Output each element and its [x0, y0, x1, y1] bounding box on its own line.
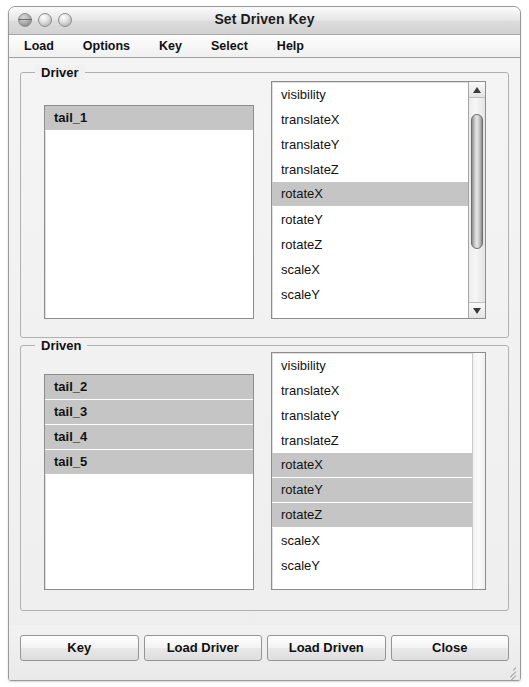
dialog-footer: Key Load Driver Load Driven Close — [9, 625, 520, 681]
attribute-list-item[interactable]: scaleX — [272, 257, 468, 282]
object-list-item[interactable]: tail_1 — [45, 106, 253, 131]
scroll-up-arrow-icon[interactable] — [469, 82, 485, 98]
close-dialog-button[interactable]: Close — [391, 635, 510, 661]
attribute-list-item[interactable]: rotateY — [272, 478, 472, 503]
object-list-item[interactable]: tail_3 — [45, 400, 253, 425]
driven-attribute-list-rows: visibilitytranslateXtranslateYtranslateZ… — [272, 353, 472, 589]
driven-group-title: Driven — [35, 338, 87, 353]
driven-attribute-scrollbar[interactable] — [472, 353, 485, 589]
attribute-list-item[interactable]: visibility — [272, 82, 468, 107]
attribute-list-item[interactable]: rotateZ — [272, 232, 468, 257]
title-bar[interactable]: Set Driven Key — [9, 7, 520, 35]
menu-bar: Load Options Key Select Help — [9, 35, 520, 58]
menu-item-help[interactable]: Help — [275, 38, 306, 54]
menu-item-select[interactable]: Select — [209, 38, 250, 54]
attribute-list-item[interactable]: scaleX — [272, 528, 472, 553]
resize-grip-icon[interactable] — [502, 664, 517, 679]
attribute-list-item[interactable]: translateX — [272, 107, 468, 132]
attribute-list-item[interactable]: translateX — [272, 378, 472, 403]
key-button[interactable]: Key — [20, 635, 139, 661]
menu-item-options[interactable]: Options — [81, 38, 132, 54]
driven-group: Driven tail_2tail_3tail_4tail_5 visibili… — [20, 345, 509, 611]
driven-object-list[interactable]: tail_2tail_3tail_4tail_5 — [44, 374, 254, 590]
attribute-list-item[interactable]: scaleY — [272, 553, 472, 578]
attribute-list-item[interactable]: translateZ — [272, 157, 468, 182]
attribute-list-item[interactable]: scaleY — [272, 282, 468, 307]
scrollbar-thumb[interactable] — [471, 114, 483, 249]
driver-object-list[interactable]: tail_1 — [44, 105, 254, 319]
object-list-item[interactable]: tail_5 — [45, 450, 253, 475]
load-driven-button[interactable]: Load Driven — [267, 635, 386, 661]
driver-attribute-scrollbar[interactable] — [468, 82, 485, 318]
menu-item-key[interactable]: Key — [157, 38, 184, 54]
attribute-list-item[interactable]: translateY — [272, 403, 472, 428]
menu-item-load[interactable]: Load — [22, 38, 56, 54]
scroll-down-arrow-icon[interactable] — [469, 302, 485, 318]
attribute-list-item[interactable]: translateZ — [272, 428, 472, 453]
attribute-list-item[interactable]: rotateX — [272, 453, 472, 478]
driver-attribute-list-rows: visibilitytranslateXtranslateYtranslateZ… — [272, 82, 468, 318]
driver-group-title: Driver — [35, 65, 85, 80]
dialog-content: Driver tail_1 visibilitytranslateXtransl… — [9, 58, 520, 681]
attribute-list-item[interactable]: visibility — [272, 353, 472, 378]
attribute-list-item[interactable]: rotateX — [272, 182, 468, 207]
object-list-item[interactable]: tail_2 — [45, 375, 253, 400]
attribute-list-item[interactable]: rotateY — [272, 207, 468, 232]
driven-attribute-list[interactable]: visibilitytranslateXtranslateYtranslateZ… — [271, 352, 486, 590]
driver-attribute-list[interactable]: visibilitytranslateXtranslateYtranslateZ… — [271, 81, 486, 319]
driven-object-list-rows: tail_2tail_3tail_4tail_5 — [45, 375, 253, 589]
load-driver-button[interactable]: Load Driver — [144, 635, 263, 661]
window-title: Set Driven Key — [9, 11, 520, 27]
attribute-list-item[interactable]: rotateZ — [272, 503, 472, 528]
driver-group: Driver tail_1 visibilitytranslateXtransl… — [20, 72, 509, 338]
object-list-item[interactable]: tail_4 — [45, 425, 253, 450]
driver-object-list-rows: tail_1 — [45, 106, 253, 318]
attribute-list-item[interactable]: translateY — [272, 132, 468, 157]
footer-button-row: Key Load Driver Load Driven Close — [20, 635, 509, 661]
set-driven-key-window: Set Driven Key Load Options Key Select H… — [8, 6, 521, 681]
